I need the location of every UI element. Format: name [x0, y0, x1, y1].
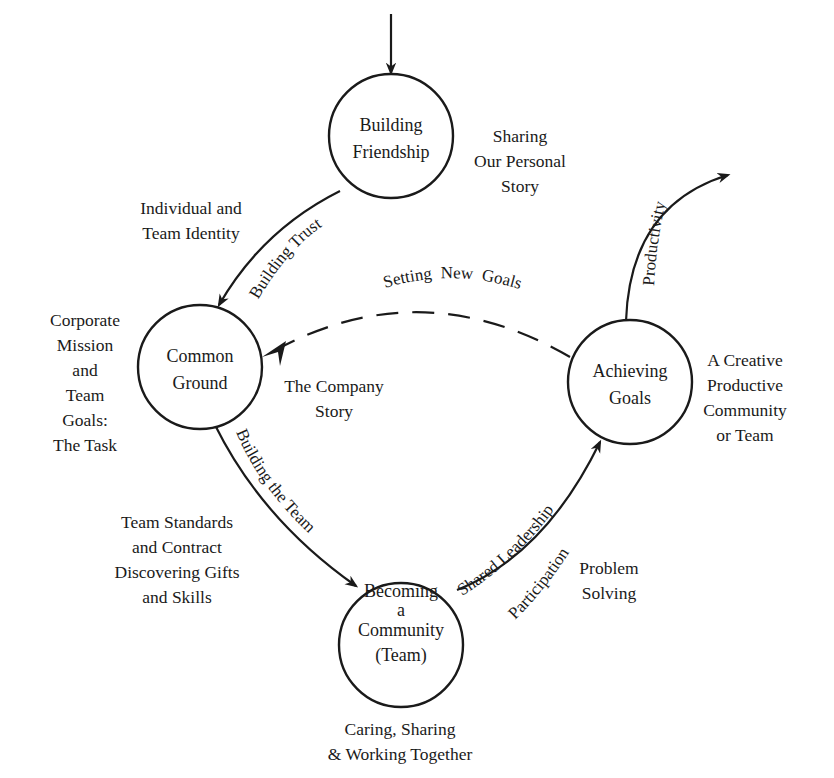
svg-text:Individual and: Individual and: [140, 198, 242, 218]
svg-text:Mission: Mission: [57, 335, 114, 355]
svg-text:The Company: The Company: [284, 376, 384, 396]
node-label: Goals: [609, 388, 651, 408]
svg-text:Discovering Gifts: Discovering Gifts: [115, 562, 240, 582]
svg-text:Solving: Solving: [582, 583, 637, 603]
annotation-company-story: The Company Story: [284, 376, 384, 421]
node-label: (Team): [375, 645, 427, 666]
annotation-team-standards: Team Standards and Contract Discovering …: [115, 512, 240, 607]
svg-text:Team: Team: [66, 385, 105, 405]
edge-label-productivity: Productivity: [639, 199, 670, 286]
svg-text:Team Identity: Team Identity: [142, 223, 240, 243]
node-label: Becoming: [364, 581, 438, 601]
annotation-creative-community: A Creative Productive Community or Team: [703, 350, 787, 445]
node-building-friendship: Building Friendship: [329, 74, 453, 198]
setting-new-goals-arrowhead-icon: [262, 341, 286, 366]
node-label: Friendship: [352, 142, 429, 162]
annotation-corporate-mission: Corporate Mission and Team Goals: The Ta…: [50, 310, 120, 455]
node-label: Achieving: [593, 361, 668, 381]
svg-text:Story: Story: [501, 176, 539, 196]
annotation-caring-sharing: Caring, Sharing & Working Together: [328, 719, 473, 764]
svg-text:& Working Together: & Working Together: [328, 744, 473, 764]
svg-text:Sharing: Sharing: [493, 126, 548, 146]
svg-text:The Task: The Task: [53, 435, 117, 455]
svg-text:Story: Story: [315, 401, 353, 421]
svg-text:Productive: Productive: [707, 375, 783, 395]
annotation-individual-identity: Individual and Team Identity: [140, 198, 242, 243]
svg-text:Goals:: Goals:: [62, 410, 108, 430]
node-achieving-goals: Achieving Goals: [568, 320, 692, 444]
svg-text:and: and: [72, 360, 98, 380]
node-label: Ground: [173, 373, 228, 393]
node-label: a: [397, 600, 405, 620]
node-label: Building: [359, 115, 422, 135]
svg-text:Team Standards: Team Standards: [121, 512, 233, 532]
svg-text:and Contract: and Contract: [132, 537, 222, 557]
node-label: Common: [166, 346, 233, 366]
annotation-sharing-story: Sharing Our Personal Story: [474, 126, 566, 196]
svg-text:A Creative: A Creative: [707, 350, 783, 370]
productivity-arrow: [626, 175, 728, 321]
svg-text:Our Personal: Our Personal: [474, 151, 566, 171]
node-label: Community: [358, 620, 444, 640]
svg-text:Corporate: Corporate: [50, 310, 120, 330]
svg-text:and Skills: and Skills: [142, 587, 212, 607]
svg-text:or Team: or Team: [716, 425, 774, 445]
annotation-problem-solving: Problem Solving: [579, 558, 639, 603]
edge-label-building-the-team: Building the Team: [232, 426, 319, 537]
node-becoming-community: Becoming a Community (Team): [339, 581, 463, 707]
svg-text:Community: Community: [703, 400, 787, 420]
svg-text:Caring, Sharing: Caring, Sharing: [345, 719, 456, 739]
setting-new-goals-arrow: [272, 312, 570, 357]
team-building-cycle-diagram: Building Friendship Common Ground Achiev…: [0, 0, 834, 778]
svg-text:Problem: Problem: [579, 558, 639, 578]
node-common-ground: Common Ground: [138, 305, 262, 429]
